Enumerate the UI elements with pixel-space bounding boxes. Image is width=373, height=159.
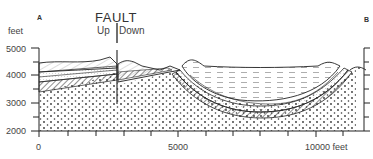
- y-axis-right: [364, 48, 370, 131]
- x-axis: [39, 131, 364, 137]
- cross-section-diagram: [0, 0, 373, 159]
- y-axis-left: [31, 48, 39, 131]
